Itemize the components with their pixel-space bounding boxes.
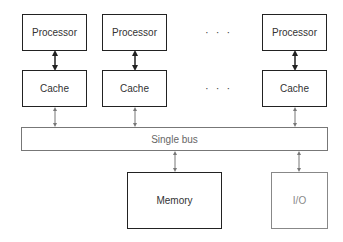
- io-label: I/O: [293, 195, 306, 206]
- processor-label: Processor: [272, 27, 317, 38]
- ellipsis-processors: · · ·: [205, 27, 232, 38]
- cache-box-2: Cache: [102, 70, 167, 107]
- ellipsis-caches: · · ·: [205, 83, 232, 94]
- processor-label: Processor: [112, 27, 157, 38]
- processor-box-n: Processor: [262, 14, 327, 51]
- cache-label: Cache: [40, 83, 69, 94]
- memory-box: Memory: [127, 172, 222, 229]
- memory-label: Memory: [156, 195, 192, 206]
- io-box: I/O: [271, 172, 328, 229]
- processor-box-1: Processor: [22, 14, 87, 51]
- cache-box-1: Cache: [22, 70, 87, 107]
- processor-box-2: Processor: [102, 14, 167, 51]
- processor-label: Processor: [32, 27, 77, 38]
- bus-label: Single bus: [151, 134, 198, 145]
- cache-label: Cache: [120, 83, 149, 94]
- cache-box-n: Cache: [262, 70, 327, 107]
- cache-label: Cache: [280, 83, 309, 94]
- single-bus: Single bus: [21, 127, 328, 151]
